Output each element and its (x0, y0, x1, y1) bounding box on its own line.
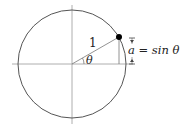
radius-label: 1 (89, 37, 97, 49)
sine-label: a = sin θ (128, 45, 179, 57)
point-on-circle (116, 34, 122, 40)
angle-arc (83, 58, 85, 64)
angle-label: θ (86, 55, 93, 66)
arrow-up-icon (130, 59, 134, 62)
sine-label-text: a = sin θ (128, 43, 179, 57)
